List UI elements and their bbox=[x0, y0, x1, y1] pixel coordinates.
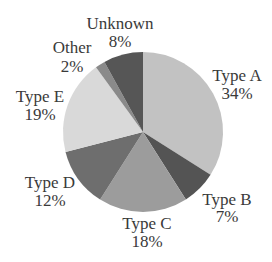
label-type-d-name: Type D bbox=[25, 173, 75, 192]
label-type-e-percent: 19% bbox=[24, 105, 55, 124]
label-other-name: Other bbox=[53, 38, 92, 57]
pie-chart: Type A34%Type B7%Type C18%Type D12%Type … bbox=[0, 0, 272, 262]
label-type-c-percent: 18% bbox=[131, 232, 162, 251]
label-type-d-percent: 12% bbox=[34, 191, 65, 210]
pie-chart-svg: Type A34%Type B7%Type C18%Type D12%Type … bbox=[0, 0, 272, 262]
label-unknown-percent: 8% bbox=[109, 32, 132, 51]
label-type-a-percent: 34% bbox=[221, 84, 252, 103]
label-unknown-name: Unknown bbox=[86, 14, 154, 33]
label-type-e-name: Type E bbox=[16, 87, 64, 106]
label-type-a-name: Type A bbox=[212, 66, 262, 85]
label-type-c-name: Type C bbox=[122, 214, 171, 233]
label-other-percent: 2% bbox=[61, 57, 84, 76]
pie-slices bbox=[63, 52, 223, 212]
label-type-b-percent: 7% bbox=[216, 207, 239, 226]
